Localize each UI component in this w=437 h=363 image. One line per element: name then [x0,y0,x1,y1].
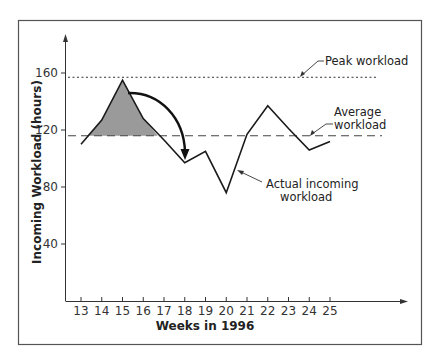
x-tick-label: 13 [73,304,88,318]
x-tick-label: 18 [177,304,192,318]
x-tick-label: 21 [239,304,254,318]
actual-pointer-icon [237,170,244,175]
chart-frame [19,21,422,345]
x-tick-label: 25 [322,304,337,318]
x-tick-label: 19 [198,304,213,318]
y-axis-title: Incoming Workload (hours) [30,80,44,264]
x-tick-label: 15 [115,304,130,318]
y-axis-arrow-icon [63,34,68,42]
x-tick-label: 17 [156,304,171,318]
x-tick-label: 20 [219,304,234,318]
x-tick-label: 24 [302,304,317,318]
x-tick-label: 22 [260,304,275,318]
y-tick-label: 160 [35,66,58,80]
y-tick-label: 80 [43,180,58,194]
chart-figure: 4080120160 13141516171819202122232425 Pe… [0,0,437,363]
actual-annotation: Actual incoming workload [237,170,359,204]
average-annotation: Average workload [310,105,386,136]
x-tick-label: 14 [94,304,109,318]
curved-arrow-head-icon [181,149,190,160]
actual-label-line1: Actual incoming [266,177,359,191]
average-label-line1: Average [334,105,381,119]
y-axis [63,34,68,301]
average-label-line2: workload [334,118,386,132]
y-tick-label: 40 [43,237,58,251]
actual-label-line2: workload [280,190,332,204]
x-ticks: 13141516171819202122232425 [73,297,337,318]
peak-annotation: Peak workload [300,54,408,77]
x-tick-label: 23 [281,304,296,318]
peak-pointer-icon [300,71,305,77]
average-pointer-icon [310,130,315,136]
excess-workload-shaded-area [87,80,158,136]
x-tick-label: 16 [136,304,151,318]
x-axis-arrow-icon [400,299,408,304]
peak-label: Peak workload [325,54,408,68]
x-axis-title: Weeks in 1996 [156,319,255,333]
